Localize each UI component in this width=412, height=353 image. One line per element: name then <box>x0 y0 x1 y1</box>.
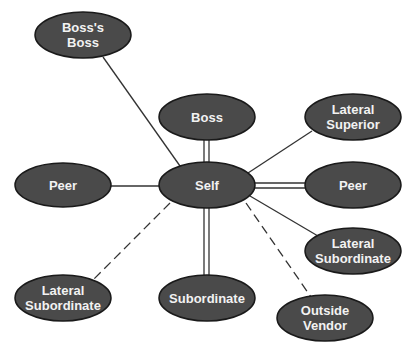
label-lateral-subordinate-right: Lateral Subordinate <box>315 236 391 266</box>
label-outside-vendor: Outside Vendor <box>301 303 349 333</box>
label-peer-right: Peer <box>339 178 367 193</box>
edge-self-outside-vendor <box>246 203 311 297</box>
label-boss: Boss <box>191 110 223 125</box>
edge-self-lateral-superior <box>248 131 312 173</box>
edge-self-lateral-subordinate-left <box>93 203 170 280</box>
label-bosss-boss: Boss's Boss <box>62 20 104 50</box>
label-lateral-superior: Lateral Superior <box>326 102 379 132</box>
edge-self-lateral-subordinate-right <box>250 196 318 236</box>
label-lateral-subordinate-left: Lateral Subordinate <box>25 283 101 313</box>
label-peer-left: Peer <box>49 178 77 193</box>
label-self: Self <box>195 178 219 193</box>
label-subordinate: Subordinate <box>169 291 245 306</box>
